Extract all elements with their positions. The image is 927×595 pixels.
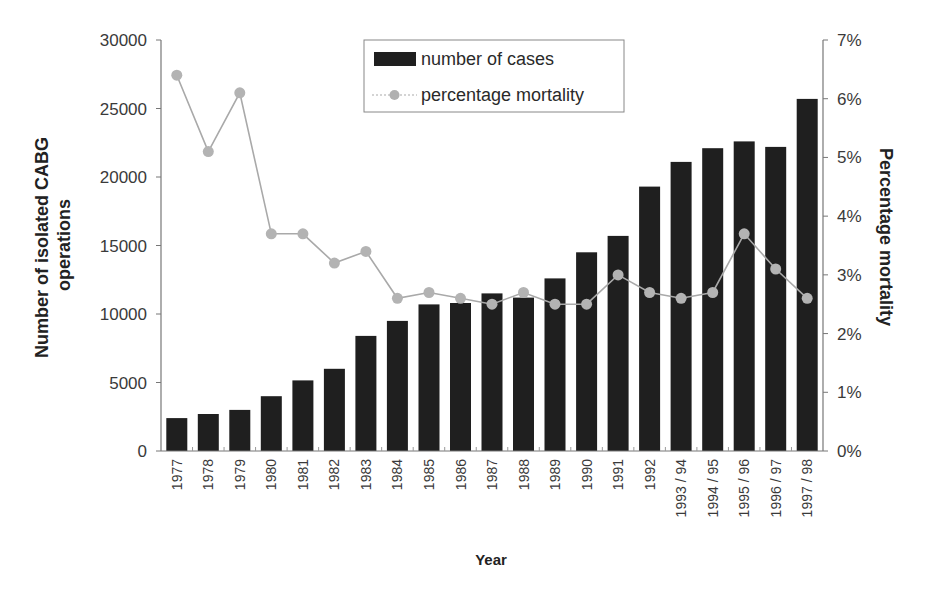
bar [450, 303, 471, 451]
x-tick-label: 1983 [358, 459, 374, 490]
data-point-marker [424, 287, 435, 298]
legend: number of cases percentage mortality [364, 40, 624, 112]
data-point-marker [550, 299, 561, 310]
x-axis: 1977197819791980198119821983198419851986… [161, 447, 823, 517]
x-tick-label: 1979 [232, 459, 248, 490]
left-axis: 050001000015000200002500030000 [100, 31, 161, 461]
bar [702, 148, 723, 451]
x-tick-label: 1977 [169, 459, 185, 490]
legend-item-number-of-cases: number of cases [374, 49, 554, 69]
cabg-chart: 050001000015000200002500030000 0%1%2%3%4… [0, 0, 927, 595]
data-point-marker [297, 228, 308, 239]
y2-tick-label: 5% [837, 148, 862, 167]
x-tick-label: 1980 [263, 459, 279, 490]
data-point-marker [360, 246, 371, 257]
legend-label: number of cases [421, 49, 554, 69]
x-tick-label: 1988 [516, 459, 532, 490]
data-point-marker [455, 293, 466, 304]
y2-tick-label: 6% [837, 90, 862, 109]
y2-tick-label: 2% [837, 325, 862, 344]
data-point-marker [392, 293, 403, 304]
data-point-marker [518, 287, 529, 298]
data-point-marker [644, 287, 655, 298]
x-tick-label: 1993 / 94 [673, 459, 689, 518]
bar [639, 187, 660, 451]
y-axis-title: Number of isolated CABG operations [32, 132, 74, 358]
data-point-marker [581, 299, 592, 310]
data-point-marker [234, 87, 245, 98]
bar-swatch-icon [374, 52, 416, 66]
x-tick-label: 1982 [326, 459, 342, 490]
right-axis: 0%1%2%3%4%5%6%7% [823, 31, 862, 461]
x-tick-label: 1989 [547, 459, 563, 490]
bar [608, 236, 629, 451]
data-point-marker [739, 228, 750, 239]
bar [482, 293, 503, 451]
bar [513, 298, 534, 451]
x-tick-label: 1981 [295, 459, 311, 490]
bar [576, 252, 597, 451]
x-tick-label: 1996 / 97 [768, 459, 784, 518]
x-tick-label: 1987 [484, 459, 500, 490]
y-tick-label: 20000 [100, 168, 147, 187]
data-point-marker [487, 299, 498, 310]
y2-tick-label: 4% [837, 207, 862, 226]
x-tick-label: 1986 [453, 459, 469, 490]
x-axis-title: Year [475, 551, 507, 568]
data-point-marker [329, 258, 340, 269]
y2-tick-label: 1% [837, 383, 862, 402]
y-tick-label: 0 [138, 442, 147, 461]
bar [324, 369, 345, 451]
y-tick-label: 5000 [109, 374, 147, 393]
y-tick-label: 10000 [100, 305, 147, 324]
x-tick-label: 1992 [642, 459, 658, 490]
data-point-marker [613, 269, 624, 280]
y-tick-label: 25000 [100, 100, 147, 119]
bar [765, 147, 786, 451]
bar [387, 321, 408, 451]
x-tick-label: 1978 [200, 459, 216, 490]
x-tick-label: 1991 [610, 459, 626, 490]
dot-marker-icon [390, 90, 400, 100]
data-point-marker [266, 228, 277, 239]
x-tick-label: 1985 [421, 459, 437, 490]
y-tick-label: 15000 [100, 237, 147, 256]
bar [797, 99, 818, 451]
data-point-marker [802, 293, 813, 304]
bar-series-number-of-cases [166, 99, 817, 451]
legend-label: percentage mortality [421, 85, 584, 105]
y2-tick-label: 7% [837, 31, 862, 50]
data-point-marker [171, 70, 182, 81]
x-tick-label: 1995 / 96 [736, 459, 752, 518]
y2-tick-label: 3% [837, 266, 862, 285]
y-tick-label: 30000 [100, 31, 147, 50]
bar [419, 304, 440, 451]
bar [355, 336, 376, 451]
y2-tick-label: 0% [837, 442, 862, 461]
x-tick-label: 1984 [389, 459, 405, 490]
x-tick-label: 1990 [579, 459, 595, 490]
y2-axis-title: Percentage mortality [876, 148, 896, 326]
bar [166, 418, 187, 451]
bar [261, 396, 282, 451]
bar [198, 414, 219, 451]
bar [229, 410, 250, 451]
bar [292, 380, 313, 451]
bar [734, 141, 755, 451]
data-point-marker [676, 293, 687, 304]
data-point-marker [203, 146, 214, 157]
data-point-marker [707, 287, 718, 298]
x-tick-label: 1997 / 98 [799, 459, 815, 518]
x-tick-label: 1994 / 95 [705, 459, 721, 518]
data-point-marker [770, 264, 781, 275]
bar [671, 162, 692, 451]
